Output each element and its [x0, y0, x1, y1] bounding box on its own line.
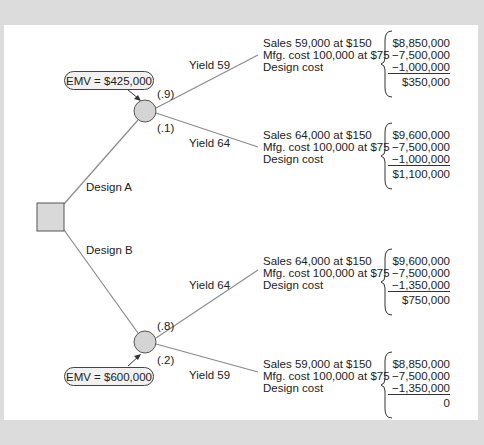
outcome-values-b1: $9,600,000 −7,500,000 −1,350,000 $750,00… — [388, 255, 450, 306]
outcome-details-a1: Sales 59,000 at $150 Mfg. cost 100,000 a… — [263, 37, 390, 73]
outcome-values-a2: $9,600,000 −7,500,000 −1,000,000 $1,100,… — [388, 129, 450, 180]
sales-line: Sales 59,000 at $150 — [263, 358, 390, 370]
mfg-cost-value: −7,500,000 — [388, 141, 450, 153]
design-cost-value: −1,350,000 — [388, 279, 450, 292]
mfg-cost-line: Mfg. cost 100,000 at $75 — [263, 49, 390, 61]
outcome-details-a2: Sales 64,000 at $150 Mfg. cost 100,000 a… — [263, 129, 390, 165]
branch-label-design-a: Design A — [86, 181, 132, 193]
net-value: $1,100,000 — [388, 166, 450, 180]
emv-label-design-b: EMV = $600,000 — [64, 367, 154, 386]
chance-node-b — [134, 331, 156, 353]
outcome-label-a2: Yield 64 — [189, 137, 230, 149]
mfg-cost-value: −7,500,000 — [388, 49, 450, 61]
outcome-details-b1: Sales 64,000 at $150 Mfg. cost 100,000 a… — [263, 255, 390, 291]
probability-a1: (.9) — [157, 88, 174, 100]
sales-line: Sales 59,000 at $150 — [263, 37, 390, 49]
emv-label-design-a: EMV = $425,000 — [64, 71, 154, 90]
chance-node-a — [134, 100, 156, 122]
mfg-cost-line: Mfg. cost 100,000 at $75 — [263, 141, 390, 153]
sales-line: Sales 64,000 at $150 — [263, 255, 390, 267]
probability-b2: (.2) — [157, 354, 174, 366]
outcome-details-b2: Sales 59,000 at $150 Mfg. cost 100,000 a… — [263, 358, 390, 394]
outcome-label-a1: Yield 59 — [189, 59, 230, 71]
design-cost-value: −1,000,000 — [388, 153, 450, 166]
outcome-label-b1: Yield 64 — [189, 279, 230, 291]
design-cost-line: Design cost — [263, 279, 390, 291]
net-value: $350,000 — [388, 74, 450, 88]
design-cost-line: Design cost — [263, 153, 390, 165]
branch-label-design-b: Design B — [86, 244, 133, 256]
mfg-cost-line: Mfg. cost 100,000 at $75 — [263, 267, 390, 279]
design-cost-line: Design cost — [263, 382, 390, 394]
decision-node — [37, 203, 64, 231]
sales-value: $8,850,000 — [388, 358, 450, 370]
sales-value: $9,600,000 — [388, 255, 450, 267]
mfg-cost-value: −7,500,000 — [388, 370, 450, 382]
sales-value: $9,600,000 — [388, 129, 450, 141]
sales-value: $8,850,000 — [388, 37, 450, 49]
probability-a2: (.1) — [157, 122, 174, 134]
mfg-cost-value: −7,500,000 — [388, 267, 450, 279]
outcome-label-b2: Yield 59 — [189, 369, 230, 381]
mfg-cost-line: Mfg. cost 100,000 at $75 — [263, 370, 390, 382]
design-cost-value: −1,000,000 — [388, 61, 450, 74]
net-value: $750,000 — [388, 292, 450, 306]
net-value: 0 — [388, 395, 450, 409]
outcome-values-a1: $8,850,000 −7,500,000 −1,000,000 $350,00… — [388, 37, 450, 88]
sales-line: Sales 64,000 at $150 — [263, 129, 390, 141]
design-cost-line: Design cost — [263, 61, 390, 73]
design-cost-value: −1,350,000 — [388, 382, 450, 395]
outcome-values-b2: $8,850,000 −7,500,000 −1,350,000 0 — [388, 358, 450, 409]
probability-b1: (.8) — [157, 320, 174, 332]
